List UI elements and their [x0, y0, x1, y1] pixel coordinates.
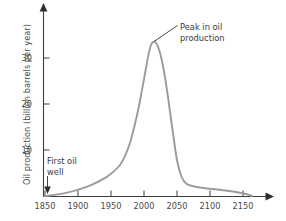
y-tick-label-20: 20 — [10, 99, 32, 109]
x-tick-label-2000: 2000 — [133, 201, 154, 211]
x-tick-label-2100: 2100 — [199, 201, 220, 211]
y-axis-arrow-icon — [40, 3, 48, 12]
first-oil-well-line-1: First oil — [47, 156, 77, 167]
x-tick-label-2050: 2050 — [166, 201, 187, 211]
peak-in-oil-production-annotation: Peak in oil production — [180, 22, 225, 43]
y-tick-label-10: 10 — [10, 145, 32, 155]
y-tick-label-30: 30 — [10, 53, 32, 63]
x-tick-label-1850: 1850 — [34, 201, 55, 211]
peak-annotation-line-2: production — [180, 33, 225, 44]
peak-annotation-line-1: Peak in oil — [180, 22, 225, 33]
chart-plot-area — [0, 0, 286, 221]
oil-production-chart-figure: Oil production (billion barrels per year… — [0, 0, 286, 221]
first-oil-well-line-2: well — [47, 167, 77, 178]
x-tick-label-2150: 2150 — [232, 201, 253, 211]
x-axis-arrow-icon — [266, 193, 275, 201]
figure-caption — [0, 213, 286, 221]
x-tick-label-1900: 1900 — [67, 201, 88, 211]
first-oil-well-annotation: First oil well — [47, 156, 77, 177]
peak-annotation-leader-line — [154, 26, 178, 42]
x-tick-label-1950: 1950 — [100, 201, 121, 211]
